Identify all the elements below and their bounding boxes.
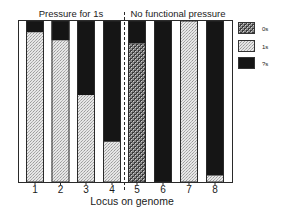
x-axis-label: Locus on genome (90, 195, 174, 207)
stacked-bar-chart: Pressure for 1s No functional pressure 1… (0, 0, 281, 219)
bar-segment-4-unknowns (103, 21, 121, 142)
x-tick-label: 8 (212, 184, 218, 195)
bar-segment-8-1s (206, 176, 224, 182)
bar-segment-2-1s (52, 40, 70, 182)
legend-swatch-1s (239, 41, 255, 52)
legend-swatch-0s (239, 23, 255, 34)
legend-label-1s: 1s (262, 44, 268, 50)
x-tick-label: 2 (58, 184, 64, 195)
bar-segment-1-1s (26, 32, 44, 182)
bar-segment-7-1s (180, 21, 198, 182)
bar-segment-5-unknowns (128, 21, 146, 44)
x-tick-label: 5 (134, 184, 140, 195)
group-label-pressure: Pressure for 1s (39, 8, 104, 19)
bar-segment-6-unknowns (154, 21, 172, 182)
x-tick-label: 7 (186, 184, 192, 195)
legend-label-unknown: ?s (262, 61, 268, 67)
x-tick-label: 3 (83, 184, 89, 195)
x-tick-label: 4 (109, 184, 115, 195)
group-label-no-pressure: No functional pressure (130, 8, 225, 19)
bar-segment-1-unknowns (26, 21, 44, 32)
bar-segment-4-1s (103, 142, 121, 182)
bar-segment-8-unknowns (206, 21, 224, 176)
bar-segment-2-unknowns (52, 21, 70, 40)
x-tick-label: 1 (32, 184, 38, 195)
legend-swatch-unknown (239, 58, 255, 69)
bar-segment-5-0s (128, 44, 146, 182)
bar-segment-3-unknowns (77, 21, 95, 95)
legend: 0s 1s ?s (239, 23, 269, 69)
bar-segment-3-1s (77, 95, 95, 182)
legend-label-0s: 0s (262, 26, 268, 32)
x-axis-ticks: 12345678 (32, 183, 218, 196)
x-tick-label: 6 (160, 184, 166, 195)
plot-frame (19, 21, 233, 183)
